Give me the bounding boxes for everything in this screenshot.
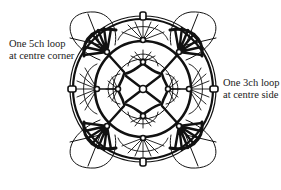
side-loop-label-line1: One 3ch loop: [223, 77, 280, 89]
corner-loop-label-line2: at centre corner: [9, 50, 74, 62]
corner-loop-label-line1: One 5ch loop: [9, 38, 74, 50]
side-loop-label: One 3ch loop at centre side: [223, 77, 280, 101]
side-loop-label-line2: at centre side: [223, 89, 280, 101]
corner-loop-label: One 5ch loop at centre corner: [9, 38, 74, 62]
